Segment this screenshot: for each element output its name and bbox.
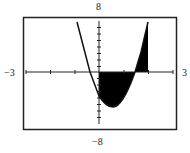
graph-window bbox=[0, 0, 190, 153]
